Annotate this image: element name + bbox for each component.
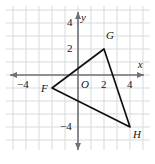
x-tick-label: −4 [17,79,29,90]
x-tick-label: 4 [127,79,133,90]
x-tick-label: 2 [101,79,107,90]
x-axis-label: x [138,59,143,70]
y-tick-label: −4 [60,121,72,132]
origin-label: O [81,79,89,90]
vertex-label-f: F [41,83,48,94]
vertex-label-g: G [106,30,114,41]
axes [10,12,144,150]
y-tick-label: 4 [67,17,73,28]
coordinate-plane-figure: x y O −42442−4 FGH [0,0,155,164]
vertex-label-h: H [133,129,141,140]
y-tick-label: 2 [67,43,73,54]
y-axis-label: y [81,12,86,23]
